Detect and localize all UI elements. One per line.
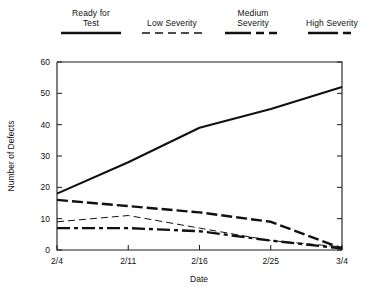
legend-label-ready-for-test-line1: Ready for [56,8,126,18]
series-line-ready-for-test [57,87,342,194]
axis-frame-top-right [57,62,342,250]
legend-label-medium-severity-line1: Medium [222,8,284,18]
y-axis-ticks: 0102030405060 [41,57,342,255]
legend-label-high-severity: High Severity [294,18,370,28]
y-tick-label-60: 60 [41,57,51,67]
legend-item-low-severity: Low Severity [134,18,210,36]
x-tick-label-2-16: 2/16 [191,256,208,266]
series-line-medium-severity [57,200,342,249]
y-tick-label-30: 30 [41,151,51,161]
dash-dot-line-icon [294,30,370,36]
x-axis-ticks: 2/42/112/162/253/4 [51,245,348,266]
legend-label-ready-for-test-line2: Test [56,18,126,28]
dashed-thin-line-icon [134,30,210,36]
x-tick-label-3-4: 3/4 [336,256,348,266]
x-tick-label-2-4: 2/4 [51,256,63,266]
legend-label-medium-severity-line2: Severity [222,18,284,28]
y-axis-title: Number of Defects [6,121,16,192]
x-tick-label-2-25: 2/25 [262,256,279,266]
solid-line-icon [56,30,126,36]
legend-item-high-severity: High Severity [294,18,370,36]
y-tick-label-10: 10 [41,214,51,224]
data-series-group [57,87,342,248]
y-tick-label-50: 50 [41,88,51,98]
axis-frame [57,62,342,250]
plot-area: 0102030405060 2/42/112/162/253/4 Date Nu… [0,50,374,290]
legend-item-ready-for-test: Ready for Test [56,8,126,36]
y-tick-label-40: 40 [41,120,51,130]
chart-legend: Ready for Test Low Severity Medium Sever… [0,0,374,52]
y-tick-label-20: 20 [41,182,51,192]
x-axis-title: Date [190,274,208,284]
y-tick-label-0: 0 [45,245,50,255]
defect-trend-chart: Ready for Test Low Severity Medium Sever… [0,0,374,290]
chart-canvas: 0102030405060 2/42/112/162/253/4 Date Nu… [0,50,374,290]
legend-label-low-severity: Low Severity [134,18,210,28]
x-tick-label-2-11: 2/11 [120,256,136,266]
dashed-thick-line-icon [222,30,284,36]
legend-item-medium-severity: Medium Severity [222,8,284,36]
